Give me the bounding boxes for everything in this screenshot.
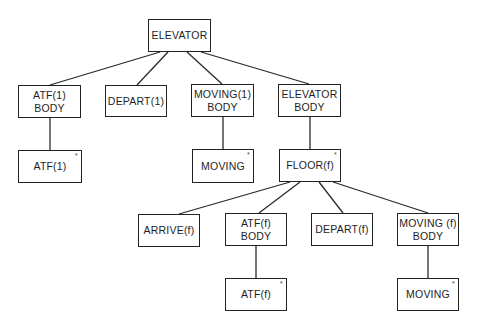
node-label-line2: BODY [241, 230, 272, 243]
node-label-line2: BODY [207, 101, 238, 114]
node-label: ATF(1) [33, 160, 66, 173]
node-movingf-body: MOVING (f) BODY [397, 213, 459, 246]
edge-floor-departf [319, 182, 343, 213]
edge-floor-movingfbody [333, 182, 428, 213]
node-depart1: DEPART(1) [105, 85, 167, 117]
node-label: MOVING [406, 288, 450, 301]
node-label-line1: MOVING(1) [194, 88, 251, 101]
node-atf-f: * ATF(f) [225, 278, 287, 311]
iteration-marker-icon: * [280, 280, 283, 287]
iteration-marker-icon: * [247, 151, 250, 158]
node-moving-b: * MOVING [397, 278, 459, 311]
node-label-line1: MOVING (f) [399, 217, 456, 230]
node-elevator: ELEVATOR [148, 19, 211, 52]
node-label-line2: BODY [34, 102, 65, 115]
node-label-line2: BODY [294, 101, 325, 114]
node-label-line2: BODY [413, 230, 444, 243]
iteration-marker-icon: * [452, 280, 455, 287]
node-label: DEPART(f) [315, 223, 368, 236]
iteration-marker-icon: * [75, 152, 78, 159]
node-label: MOVING [201, 160, 245, 173]
node-elevator-body: ELEVATOR BODY [278, 84, 341, 117]
node-atf1-body: ATF(1) BODY [18, 85, 81, 118]
node-label: ARRIVE(f) [144, 224, 195, 237]
node-label-line1: ATF(f) [241, 217, 271, 230]
node-label: ATF(f) [241, 288, 271, 301]
edge-floor-atffbody [259, 182, 300, 213]
node-moving1-body: MOVING(1) BODY [191, 84, 254, 117]
node-moving-a: * MOVING [192, 149, 254, 183]
node-floor-f: * FLOOR(f) [279, 149, 341, 182]
node-label-line1: ELEVATOR [282, 88, 338, 101]
node-label: FLOOR(f) [286, 159, 334, 172]
node-arrive-f: ARRIVE(f) [138, 214, 200, 247]
edge-floor-arrive [179, 182, 290, 214]
node-label: DEPART(1) [108, 95, 164, 108]
iteration-marker-icon: * [334, 151, 337, 158]
node-depart-f: DEPART(f) [311, 213, 373, 246]
node-label-line1: ATF(1) [33, 89, 66, 102]
node-label: ELEVATOR [152, 29, 208, 42]
edge-elevator-atf1body [50, 52, 160, 85]
node-atf1: * ATF(1) [18, 150, 82, 183]
node-atff-body: ATF(f) BODY [225, 213, 287, 246]
